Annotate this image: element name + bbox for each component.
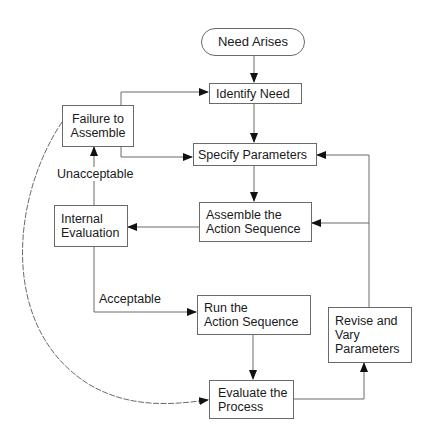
- edge-failure-to-evaluate-curve: [23, 122, 208, 404]
- node-evaluate-process: Evaluate the Process: [209, 380, 294, 419]
- node-identify-need: Identify Need: [209, 83, 302, 104]
- node-run-action-sequence: Run the Action Sequence: [197, 295, 311, 335]
- edge-failure-to-identify: [121, 92, 208, 105]
- node-specify-parameters: Specify Parameters: [193, 143, 317, 166]
- flowchart-canvas: Need Arises Identify Need Failure to Ass…: [0, 0, 435, 444]
- edge-revise-to-specify: [317, 155, 369, 307]
- edge-label-unacceptable: Unacceptable: [57, 167, 133, 181]
- node-failure-to-assemble: Failure to Assemble: [62, 105, 134, 147]
- edge-label-acceptable: Acceptable: [99, 292, 161, 306]
- node-need-arises: Need Arises: [201, 28, 305, 56]
- node-internal-evaluation: Internal Evaluation: [54, 205, 128, 247]
- node-assemble-action-sequence: Assemble the Action Sequence: [199, 202, 312, 242]
- edge-failure-to-specify: [121, 146, 192, 157]
- node-revise-vary-parameters: Revise and Vary Parameters: [328, 307, 412, 363]
- edge-evaluate-to-revise: [293, 363, 364, 399]
